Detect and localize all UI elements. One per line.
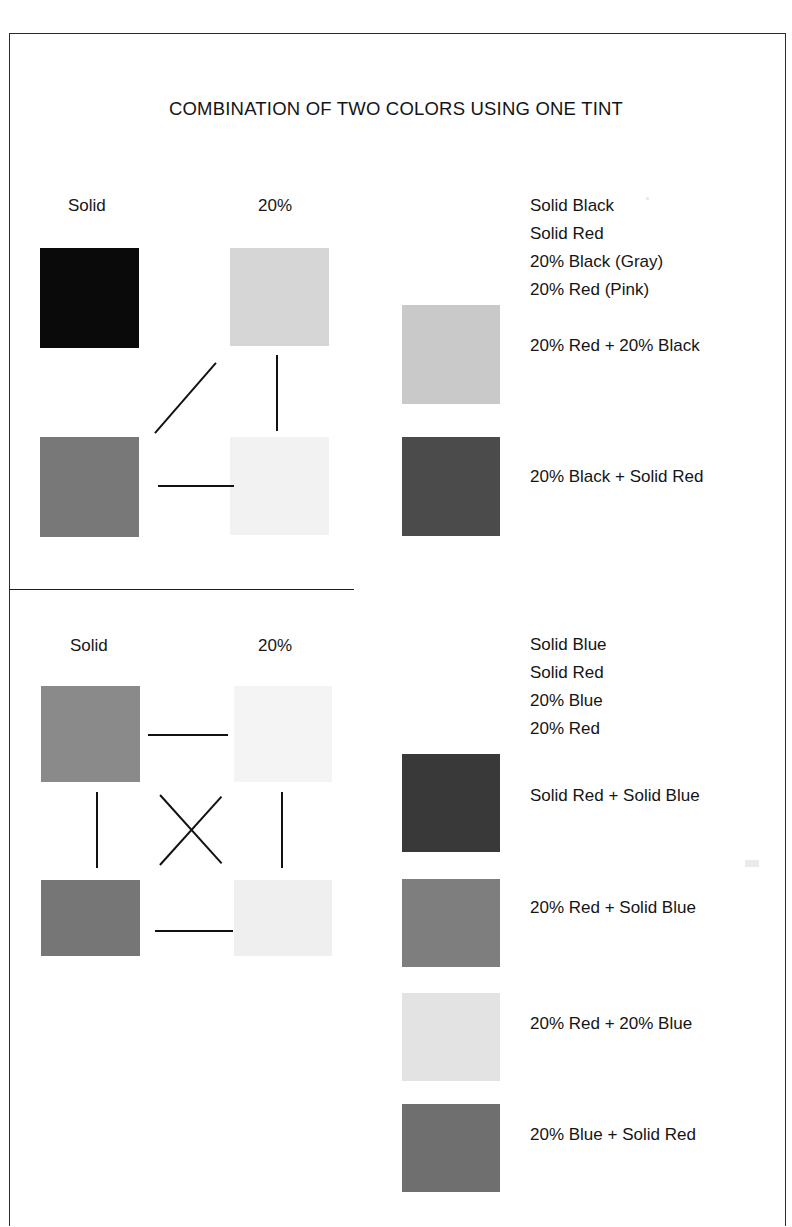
section1-result-label-0: 20% Red + 20% Black bbox=[530, 336, 700, 356]
section2-result-label-2: 20% Red + 20% Blue bbox=[530, 1014, 692, 1034]
section2-swatch-solid-red bbox=[41, 880, 140, 956]
section2-result-label-0: Solid Red + Solid Blue bbox=[530, 786, 700, 806]
section2-legend-item-1: Solid Red bbox=[530, 663, 604, 683]
section1-legend-item-0: Solid Black bbox=[530, 196, 614, 216]
section1-legend-item-2: 20% Black (Gray) bbox=[530, 252, 663, 272]
section1-legend-item-3: 20% Red (Pink) bbox=[530, 280, 649, 300]
section2-result-swatch-20blue-solidred bbox=[402, 1104, 500, 1192]
page-border bbox=[9, 33, 786, 1226]
scan-speck-top bbox=[646, 197, 649, 200]
section1-swatch-20pct-black bbox=[230, 248, 329, 346]
section1-swatch-solid-black bbox=[40, 248, 139, 348]
section2-result-swatch-20red-solidblue bbox=[402, 879, 500, 967]
section2-legend-item-3: 20% Red bbox=[530, 719, 600, 739]
section2-swatch-solid-blue bbox=[41, 686, 140, 782]
page-title: COMBINATION OF TWO COLORS USING ONE TINT bbox=[0, 98, 792, 120]
section1-result-swatch-20black-solidred bbox=[402, 437, 500, 536]
section1-column-header-tint: 20% bbox=[258, 196, 292, 216]
section2-connector-vertical-left bbox=[96, 792, 98, 868]
scan-speck-right bbox=[745, 860, 759, 867]
section2-swatch-20pct-blue bbox=[234, 686, 332, 782]
section2-result-swatch-solidred-solidblue bbox=[402, 754, 500, 852]
section1-swatch-solid-red bbox=[40, 437, 139, 537]
section2-column-header-tint: 20% bbox=[258, 636, 292, 656]
section2-result-swatch-20red-20blue bbox=[402, 993, 500, 1081]
section1-legend-item-1: Solid Red bbox=[530, 224, 604, 244]
section1-swatch-20pct-red bbox=[230, 437, 329, 535]
section1-connector-horizontal bbox=[158, 485, 234, 487]
section2-connector-horizontal-bottom bbox=[155, 930, 233, 932]
section1-connector-vertical bbox=[276, 355, 278, 431]
section1-column-header-solid: Solid bbox=[68, 196, 106, 216]
section2-connector-vertical-right bbox=[281, 792, 283, 868]
section2-result-label-3: 20% Blue + Solid Red bbox=[530, 1125, 696, 1145]
section2-legend-item-0: Solid Blue bbox=[530, 635, 607, 655]
section2-connector-horizontal-top bbox=[148, 734, 228, 736]
section1-result-label-1: 20% Black + Solid Red bbox=[530, 467, 703, 487]
section2-column-header-solid: Solid bbox=[70, 636, 108, 656]
section-divider bbox=[9, 589, 354, 590]
section2-legend-item-2: 20% Blue bbox=[530, 691, 603, 711]
section2-swatch-20pct-red bbox=[234, 880, 332, 956]
section2-result-label-1: 20% Red + Solid Blue bbox=[530, 898, 696, 918]
section1-result-swatch-20red-20black bbox=[402, 305, 500, 404]
